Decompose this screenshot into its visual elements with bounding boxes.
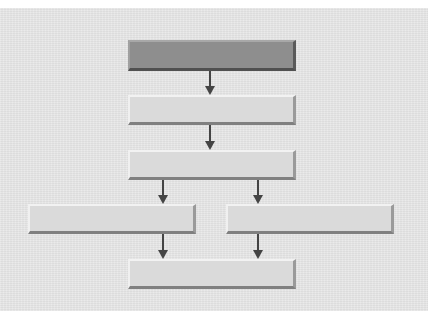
arrow-down-icon — [158, 180, 168, 204]
flow-node-end — [128, 259, 296, 289]
flow-node-step-3 — [128, 150, 296, 180]
flow-node-step-2 — [128, 95, 296, 125]
arrow-down-icon — [158, 234, 168, 259]
flow-node-start — [128, 40, 296, 71]
flow-node-branch-right — [226, 204, 394, 234]
diagram-canvas — [0, 8, 428, 311]
arrow-down-icon — [205, 125, 215, 150]
arrow-down-icon — [253, 180, 263, 204]
arrow-down-icon — [205, 71, 215, 95]
arrow-down-icon — [253, 234, 263, 259]
flow-node-branch-left — [28, 204, 196, 234]
